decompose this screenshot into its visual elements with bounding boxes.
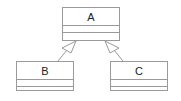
generalization-c-to-a[interactable] bbox=[105, 41, 123, 61]
class-b-name: B bbox=[41, 65, 48, 77]
class-diagram: A B C bbox=[0, 0, 181, 101]
class-box-c[interactable]: C bbox=[111, 62, 168, 91]
generalization-b-to-a[interactable] bbox=[58, 41, 76, 61]
edge-line-c-a bbox=[114, 50, 123, 61]
class-a-name: A bbox=[87, 11, 95, 23]
class-c-name: C bbox=[135, 65, 143, 77]
inheritance-arrowhead-icon bbox=[62, 41, 76, 53]
inheritance-arrowhead-icon bbox=[105, 41, 119, 53]
class-box-a[interactable]: A bbox=[63, 8, 120, 41]
edge-line-b-a bbox=[58, 50, 67, 61]
class-box-b[interactable]: B bbox=[17, 62, 74, 91]
